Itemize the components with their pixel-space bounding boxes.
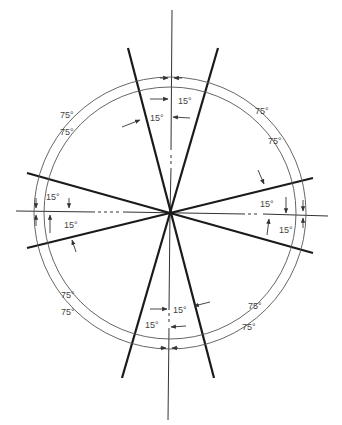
label-15-right-lower: 15° — [279, 225, 293, 235]
label-15-left-lower: 15° — [64, 220, 78, 230]
label-75-upper-right-outer: 75° — [255, 106, 269, 116]
label-15-top-left: 15° — [150, 113, 164, 123]
label-75-lower-right-outer: 75° — [248, 301, 262, 311]
label-75-lower-right-inner: 75° — [242, 322, 256, 332]
label-75-lower-left-inner: 75° — [61, 307, 75, 317]
label-15-top-right: 15° — [178, 96, 192, 106]
label-15-left-upper: 15° — [46, 192, 60, 202]
label-75-upper-left-outer: 75° — [60, 110, 74, 120]
label-75-upper-left-inner: 75° — [60, 127, 74, 137]
label-75-upper-right-inner: 75° — [268, 136, 282, 146]
label-15-right-upper: 15° — [260, 199, 274, 209]
angle-diagram: 15° 15° 15° 15° 15° 15° 15° 15° 75° 75° … — [0, 0, 342, 425]
tolerance-lines — [27, 48, 313, 378]
label-15-bottom-left: 15° — [145, 320, 159, 330]
label-75-lower-left-outer: 75° — [61, 290, 75, 300]
label-15-bottom-right: 15° — [173, 305, 187, 315]
